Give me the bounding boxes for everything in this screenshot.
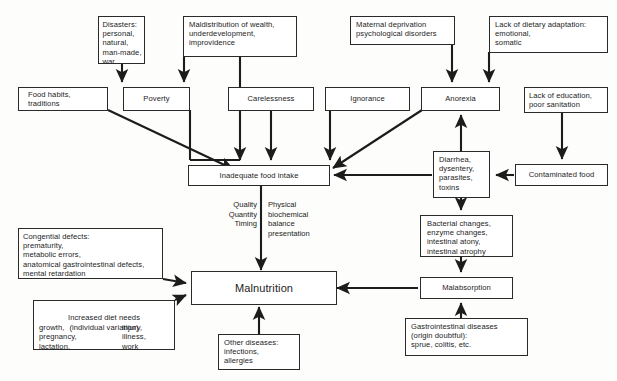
node-dietary-adaptation[interactable]: Lack of dietary adaptation: emotional, s… — [489, 16, 608, 53]
node-contaminated-food[interactable]: Contaminated food — [515, 164, 608, 186]
increased-diet-needs-left-column: growth, pregnancy, lactation, — [39, 323, 77, 350]
edge-label-quality-quantity-timing: Quality Quantity Timing — [205, 200, 257, 229]
edge-label-physical-biochemical: Physical biochemical balance presentatio… — [268, 200, 330, 238]
increased-diet-needs-right-column: injury, illness, work — [122, 323, 146, 350]
node-bacterial-changes[interactable]: Bacterial changes, enzyme changes, intes… — [420, 215, 513, 257]
node-diarrhea[interactable]: Diarrhea, dysentery, parasites, toxins — [433, 151, 490, 198]
node-malabsorption[interactable]: Malabsorption — [420, 277, 513, 299]
edge-anorexia-intake — [333, 110, 422, 168]
node-carelessness[interactable]: Carelessness — [228, 87, 314, 111]
node-malnutrition[interactable]: Malnutrition — [191, 271, 337, 305]
edge-congenital-malnutrition — [163, 279, 186, 283]
node-poverty[interactable]: Poverty — [123, 87, 190, 111]
node-gastrointestinal-diseases[interactable]: Gastrointestinal diseases (origin doubtf… — [405, 318, 528, 356]
node-maternal-deprivation[interactable]: Maternal deprivation psychological disor… — [350, 16, 455, 45]
node-disasters[interactable]: Disasters: personal, natural, man-made, … — [98, 16, 145, 64]
edge-dietneeds-malnutrition — [175, 295, 186, 300]
node-increased-diet-needs[interactable]: Increased diet needs (individual variati… — [33, 300, 175, 350]
node-anorexia[interactable]: Anorexia — [421, 87, 500, 111]
node-ignorance[interactable]: Ignorance — [325, 87, 410, 111]
malnutrition-flowchart: Disasters: personal, natural, man-made, … — [0, 0, 617, 381]
node-maldistribution[interactable]: Maldistribution of wealth, underdevelopm… — [183, 16, 297, 57]
node-other-diseases[interactable]: Other diseases: infections, allergies — [218, 334, 300, 370]
node-inadequate-food-intake[interactable]: Inadequate food intake — [188, 165, 330, 186]
node-congenital-defects[interactable]: Congential defects: prematurity, metabol… — [18, 228, 163, 279]
node-lack-of-education[interactable]: Lack of education, poor sanitation — [524, 87, 608, 113]
node-food-habits[interactable]: Food habits, traditions — [18, 87, 108, 111]
